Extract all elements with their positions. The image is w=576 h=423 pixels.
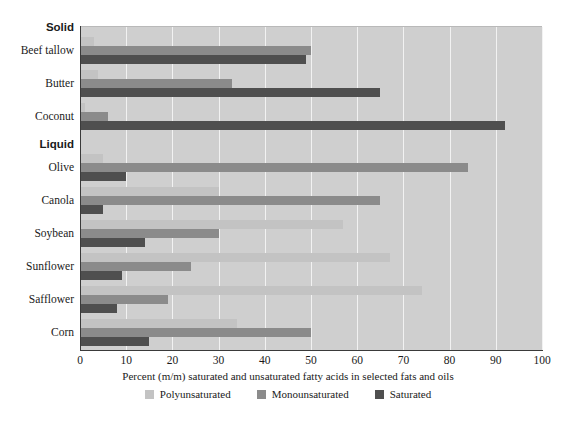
fatty-acid-bar-chart: Beef tallowButterCoconutOliveCanolaSoybe… [0, 0, 576, 423]
category-label-soybean: Soybean [0, 227, 74, 239]
category-label-butter: Butter [0, 77, 74, 89]
y-axis-line [80, 26, 81, 351]
gridline [265, 27, 266, 350]
x-tick-label: 50 [291, 354, 331, 367]
group-header-liquid: Liquid [0, 138, 74, 150]
bar [80, 262, 191, 271]
x-tick-label: 90 [476, 354, 516, 367]
x-tick-label: 70 [383, 354, 423, 367]
category-label-safflower: Safflower [0, 293, 74, 305]
bar [80, 304, 117, 313]
bar [80, 295, 168, 304]
group-header-solid: Solid [0, 21, 74, 33]
gridline [542, 27, 543, 350]
x-tick-label: 100 [522, 354, 562, 367]
bar [80, 55, 306, 64]
bar [80, 319, 237, 328]
bar [80, 238, 145, 247]
x-tick-label: 0 [60, 354, 100, 367]
gridline [219, 27, 220, 350]
legend-item: Polyunsaturated [145, 388, 231, 401]
bar [80, 37, 94, 46]
category-label-beef-tallow: Beef tallow [0, 44, 74, 56]
bar [80, 187, 219, 196]
bar [80, 196, 380, 205]
gridline [357, 27, 358, 350]
bar [80, 112, 108, 121]
legend-item: Saturated [375, 388, 432, 401]
bar [80, 88, 380, 97]
bar [80, 253, 390, 262]
legend-swatch-icon [375, 390, 384, 399]
bar [80, 205, 103, 214]
bar [80, 70, 98, 79]
x-tick-label: 60 [337, 354, 377, 367]
plot-area [80, 26, 542, 350]
bar [80, 163, 468, 172]
x-tick-label: 20 [152, 354, 192, 367]
x-tick-label: 10 [106, 354, 146, 367]
x-axis-title: Percent (m/m) saturated and unsaturated … [0, 370, 576, 383]
x-tick-label: 30 [199, 354, 239, 367]
legend-item: Monounsaturated [257, 388, 349, 401]
bar [80, 286, 422, 295]
bar [80, 172, 126, 181]
category-label-corn: Corn [0, 326, 74, 338]
legend-label: Saturated [390, 388, 432, 401]
legend-label: Polyunsaturated [160, 388, 231, 401]
bar [80, 79, 232, 88]
gridline [311, 27, 312, 350]
legend-swatch-icon [145, 390, 154, 399]
bar [80, 328, 311, 337]
category-label-olive: Olive [0, 161, 74, 173]
bar [80, 220, 343, 229]
category-label-sunflower: Sunflower [0, 260, 74, 272]
category-label-coconut: Coconut [0, 110, 74, 122]
legend-swatch-icon [257, 390, 266, 399]
bar [80, 154, 103, 163]
gridline [403, 27, 404, 350]
gridline [450, 27, 451, 350]
x-tick-label: 40 [245, 354, 285, 367]
gridline [496, 27, 497, 350]
bar [80, 271, 122, 280]
bar [80, 121, 505, 130]
bar [80, 337, 149, 346]
bar [80, 46, 311, 55]
x-axis-line [80, 350, 543, 351]
legend: PolyunsaturatedMonounsaturatedSaturated [0, 388, 576, 401]
category-label-canola: Canola [0, 194, 74, 206]
x-tick-label: 80 [430, 354, 470, 367]
bar [80, 229, 219, 238]
legend-label: Monounsaturated [272, 388, 349, 401]
